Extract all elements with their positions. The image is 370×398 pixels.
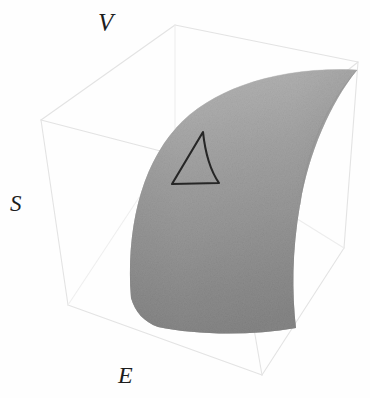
box-edge-vert-right bbox=[344, 62, 358, 248]
box-edge-top-right bbox=[175, 25, 358, 62]
box-edge-vert-left bbox=[41, 120, 68, 305]
box-edge-top-left bbox=[41, 25, 175, 120]
volume-axis-label: V bbox=[98, 10, 113, 35]
figure-root: V S E bbox=[0, 0, 370, 398]
energy-axis-label: E bbox=[118, 363, 133, 387]
state-surface-grain bbox=[120, 60, 370, 345]
surface-plot-canvas bbox=[0, 0, 370, 398]
state-surface bbox=[120, 60, 370, 345]
entropy-axis-label: S bbox=[10, 192, 22, 215]
